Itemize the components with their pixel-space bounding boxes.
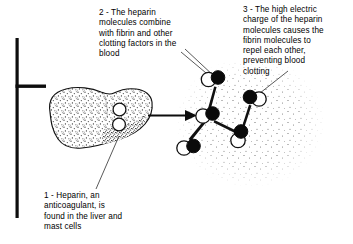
plasma-stipple-field	[178, 62, 323, 188]
liver-organ	[50, 88, 153, 149]
caption-electric-repulsion: 3 - The high electric charge of the hepa…	[243, 5, 347, 77]
figure-canvas: 1 - Heparin, an anticoagulant, is found …	[0, 0, 353, 244]
caption-heparin-source: 1 - Heparin, an anticoagulant, is found …	[44, 191, 160, 232]
caption-heparin-binding: 2 - The heparin molecules combine with f…	[99, 8, 199, 59]
mast-cell-circle-lower	[113, 118, 126, 131]
frame-bracket	[16, 38, 47, 218]
mast-cell-circle-upper	[113, 103, 126, 116]
